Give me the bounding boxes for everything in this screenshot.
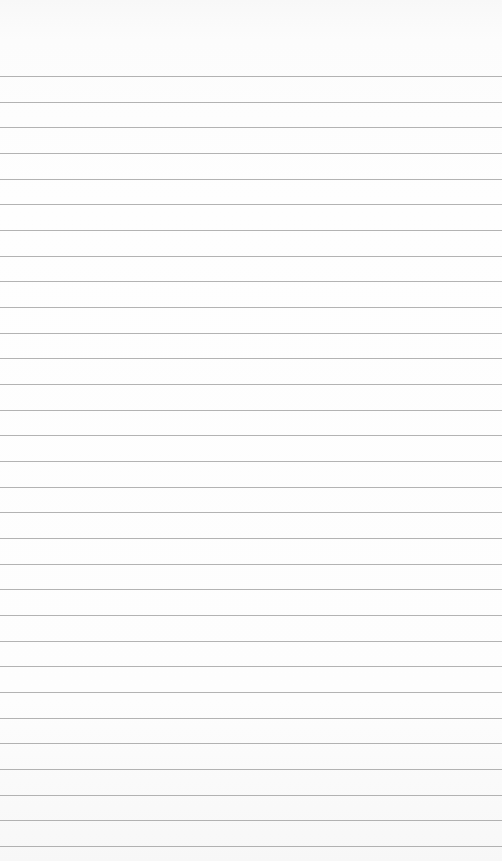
ruled-line	[0, 307, 502, 308]
ruled-line	[0, 435, 502, 436]
ruled-line	[0, 127, 502, 128]
ruled-line	[0, 179, 502, 180]
ruled-line	[0, 538, 502, 539]
ruled-line	[0, 333, 502, 334]
ruled-line	[0, 461, 502, 462]
ruled-line	[0, 358, 502, 359]
ruled-line	[0, 666, 502, 667]
ruled-line	[0, 512, 502, 513]
ruled-line	[0, 102, 502, 103]
ruled-line	[0, 795, 502, 796]
ruled-line	[0, 487, 502, 488]
ruled-line	[0, 769, 502, 770]
ruled-line	[0, 846, 502, 847]
ruled-line	[0, 230, 502, 231]
ruled-line	[0, 692, 502, 693]
ruled-line	[0, 641, 502, 642]
ruled-line	[0, 256, 502, 257]
ruled-line	[0, 743, 502, 744]
ruled-line	[0, 564, 502, 565]
ruled-line	[0, 153, 502, 154]
ruled-line	[0, 410, 502, 411]
ruled-line	[0, 589, 502, 590]
ruled-line	[0, 384, 502, 385]
lined-paper	[0, 0, 502, 861]
ruled-line	[0, 820, 502, 821]
ruled-line	[0, 615, 502, 616]
ruled-line	[0, 281, 502, 282]
ruled-line	[0, 76, 502, 77]
ruled-line	[0, 718, 502, 719]
ruled-line	[0, 204, 502, 205]
